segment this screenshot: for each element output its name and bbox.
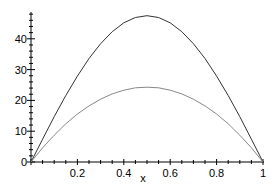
- upper-curve: [31, 16, 263, 162]
- x-axis: 0.20.40.60.81: [31, 159, 266, 179]
- y-tick-label: 30: [15, 64, 27, 76]
- x-axis-label: x: [140, 172, 146, 184]
- x-tick-label: 1: [260, 167, 266, 179]
- x-tick-label: 0.2: [70, 167, 85, 179]
- y-tick-label: 0: [21, 156, 27, 168]
- x-tick-label: 0.8: [209, 167, 224, 179]
- x-tick-label: 0.4: [116, 167, 131, 179]
- y-tick-label: 20: [15, 94, 27, 106]
- y-tick-label: 10: [15, 125, 27, 137]
- y-tick-label: 40: [15, 33, 27, 45]
- y-axis: 010203040: [15, 12, 35, 168]
- plot-series: [31, 16, 263, 162]
- line-chart: 010203040 0.20.40.60.81 x: [0, 0, 277, 188]
- lower-curve: [31, 87, 263, 162]
- x-tick-label: 0.6: [163, 167, 178, 179]
